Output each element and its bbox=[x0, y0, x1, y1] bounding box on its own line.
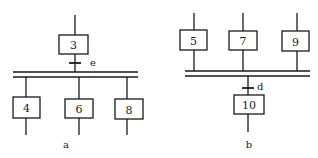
step-number: 6 bbox=[76, 103, 83, 116]
sfc-diagrams: 3 e 4 6 8 a 5 bbox=[0, 0, 318, 158]
step-number: 7 bbox=[240, 35, 247, 48]
step-6: 6 bbox=[65, 99, 93, 118]
step-4: 4 bbox=[13, 97, 40, 118]
step-9: 9 bbox=[282, 31, 309, 51]
step-number: 3 bbox=[70, 39, 77, 52]
transition-label-e: e bbox=[90, 57, 96, 68]
step-number: 4 bbox=[23, 102, 30, 115]
caption-b: b bbox=[246, 139, 252, 150]
step-number: 9 bbox=[292, 36, 299, 49]
step-8: 8 bbox=[115, 99, 143, 119]
step-number: 8 bbox=[126, 104, 133, 117]
caption-a: a bbox=[63, 139, 69, 150]
step-7: 7 bbox=[229, 31, 257, 50]
transition-label-d: d bbox=[257, 81, 264, 92]
step-10: 10 bbox=[234, 95, 264, 114]
step-number: 5 bbox=[190, 35, 197, 48]
diagram-a: 3 e 4 6 8 a bbox=[13, 15, 143, 150]
diagram-b: 5 7 9 d 10 b bbox=[180, 13, 310, 150]
step-3: 3 bbox=[59, 35, 88, 54]
step-5: 5 bbox=[180, 30, 207, 50]
step-number: 10 bbox=[242, 99, 256, 112]
